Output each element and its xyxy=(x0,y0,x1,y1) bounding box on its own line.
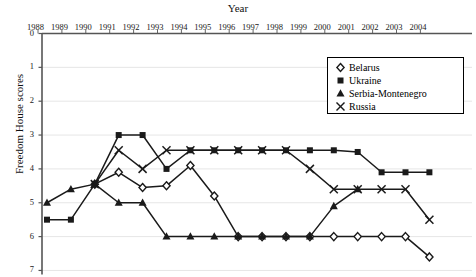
cross-icon xyxy=(334,100,347,113)
legend: BelarusUkraineSerbia-MontenegroRussia xyxy=(327,57,464,114)
y-tick-4: 4 xyxy=(0,163,34,173)
legend-item-serbia-montenegro[interactable]: Serbia-Montenegro xyxy=(334,87,463,100)
series-layer xyxy=(43,132,433,261)
legend-item-russia[interactable]: Russia xyxy=(334,100,463,113)
y-tick-2: 2 xyxy=(0,95,34,105)
x-tick-1991: 1991 xyxy=(99,22,116,32)
y-tick-7: 7 xyxy=(0,264,34,274)
x-tick-1994: 1994 xyxy=(170,22,187,32)
series-belarus xyxy=(91,162,433,261)
plot-area xyxy=(0,0,476,277)
x-tick-1995: 1995 xyxy=(194,22,211,32)
diamond-icon xyxy=(334,61,347,74)
square-icon xyxy=(334,74,347,87)
legend-label: Russia xyxy=(347,100,376,113)
x-tick-2004: 2004 xyxy=(409,22,426,32)
legend-item-ukraine[interactable]: Ukraine xyxy=(334,74,463,87)
series-ukraine xyxy=(44,132,432,223)
legend-label: Belarus xyxy=(347,61,380,74)
x-tick-1993: 1993 xyxy=(147,22,164,32)
x-tick-1999: 1999 xyxy=(290,22,307,32)
x-tick-2002: 2002 xyxy=(362,22,379,32)
y-tick-3: 3 xyxy=(0,129,34,139)
x-tick-1990: 1990 xyxy=(75,22,92,32)
x-tick-1992: 1992 xyxy=(123,22,140,32)
y-tick-0: 0 xyxy=(0,28,34,38)
y-tick-6: 6 xyxy=(0,231,34,241)
legend-label: Serbia-Montenegro xyxy=(347,87,427,100)
x-tick-2001: 2001 xyxy=(338,22,355,32)
y-tick-5: 5 xyxy=(0,197,34,207)
triangle-icon xyxy=(334,87,347,100)
x-tick-1989: 1989 xyxy=(51,22,68,32)
x-tick-2000: 2000 xyxy=(314,22,331,32)
x-tick-1997: 1997 xyxy=(242,22,259,32)
x-tick-1996: 1996 xyxy=(218,22,235,32)
x-tick-1998: 1998 xyxy=(266,22,283,32)
chart-container: Year Freedom House scores 19881989199019… xyxy=(0,0,476,277)
y-tick-1: 1 xyxy=(0,61,34,71)
legend-item-belarus[interactable]: Belarus xyxy=(334,61,463,74)
legend-label: Ukraine xyxy=(347,74,381,87)
x-tick-2003: 2003 xyxy=(386,22,403,32)
